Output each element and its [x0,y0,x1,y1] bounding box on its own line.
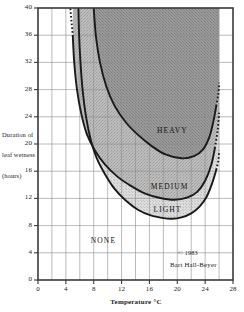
x-tick-label-8: 8 [84,286,104,293]
y-tick-label-36: 36 [8,31,32,38]
y-tick-label-0: 0 [8,276,32,283]
y-axis-title: Duration of leaf wetness (hours) [2,118,38,193]
y-axis-title-line-3: (hours) [2,173,38,180]
copyright-author: Bart Hall-Beyer [170,261,217,268]
y-tick-label-12: 12 [8,194,32,201]
copyright-year: © 1983 [178,250,198,257]
y-tick-label-28: 28 [8,86,32,93]
x-tick-label-12: 12 [112,286,132,293]
zone-label-light: LIGHT [138,206,198,214]
y-axis-title-line-1: Duration of [2,132,38,139]
zone-label-none: NONE [73,237,133,245]
curve-dotted-top-light [77,0,78,8]
y-tick-label-40: 40 [8,4,32,11]
x-tick-label-0: 0 [28,286,48,293]
x-tick-label-16: 16 [139,286,159,293]
y-axis-title-line-2: leaf wetness [2,152,38,159]
x-tick-label-28: 28 [223,286,243,293]
y-tick-label-4: 4 [8,249,32,256]
x-tick-label-4: 4 [56,286,76,293]
x-axis-title: Temperature °C [88,299,184,306]
y-tick-label-32: 32 [8,58,32,65]
x-tick-label-20: 20 [167,286,187,293]
infection-severity-chart: 0481216202428323640 0481216202428 Durati… [0,0,244,312]
zone-label-heavy: HEAVY [142,127,202,135]
zone-label-medium: MEDIUM [140,183,200,191]
x-tick-label-24: 24 [195,286,215,293]
y-tick-label-8: 8 [8,222,32,229]
